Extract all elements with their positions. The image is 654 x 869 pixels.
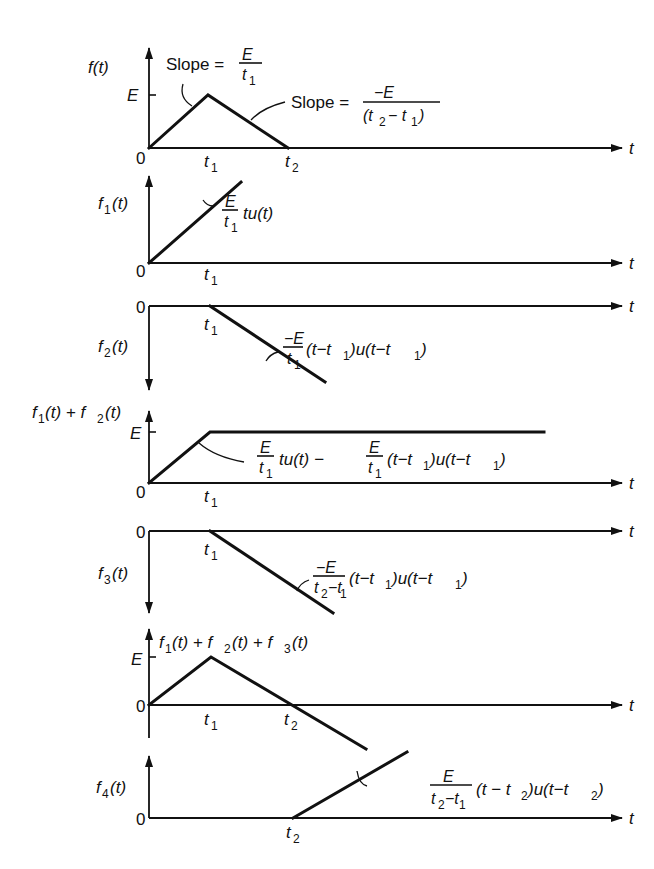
t-axis-label: t [629, 809, 635, 828]
t-axis-label: t [629, 474, 635, 493]
svg-text:(t): (t) [112, 564, 128, 583]
svg-text:1: 1 [411, 115, 418, 129]
svg-text:1: 1 [414, 349, 421, 363]
svg-text:2: 2 [438, 798, 445, 812]
panel-f: f(t) E 0 t t 1 t 2 Slope = E t 1 E Slope… [88, 46, 635, 175]
svg-text:1: 1 [211, 324, 218, 338]
svg-text:2: 2 [104, 346, 111, 360]
svg-text:(t): (t) [112, 194, 128, 213]
svg-text:2: 2 [292, 161, 299, 175]
svg-text:2: 2 [321, 587, 328, 601]
svg-text:t: t [204, 152, 210, 171]
svg-text:2: 2 [591, 789, 598, 803]
svg-text:t: t [284, 710, 290, 729]
svg-text:(t): (t) [112, 337, 128, 356]
svg-text:4: 4 [102, 787, 109, 801]
svg-text:1: 1 [493, 459, 500, 473]
negative-ramp-annotation: −E t 2 −t 1 (t−t 1 )u(t−t 1 ) [297, 559, 468, 601]
svg-text:t: t [314, 579, 319, 596]
t2-tick-label: t 2 [285, 152, 299, 175]
y-axis-label: f 2 (t) [98, 337, 128, 360]
svg-text:): ) [419, 340, 427, 359]
panel-f2: f 2 (t) 0 t t 1 −E t 1 (t−t 1 )u(t−t 1 ) [98, 297, 635, 390]
t1-tick-label: t 1 [204, 710, 218, 733]
origin-label: 0 [136, 523, 145, 542]
svg-text:E: E [260, 439, 271, 456]
svg-text:1: 1 [165, 642, 172, 656]
origin-label: 0 [136, 149, 145, 168]
t-axis-label: t [629, 522, 635, 541]
svg-text:1: 1 [249, 74, 256, 88]
svg-text:−E: −E [316, 559, 336, 576]
delayed-ramp-curve [293, 752, 407, 818]
svg-text:−t: −t [445, 790, 459, 807]
svg-text:1: 1 [211, 161, 218, 175]
triangle-pulse-curve [149, 95, 288, 148]
t-axis-label: t [629, 297, 635, 316]
svg-text:1: 1 [211, 719, 218, 733]
t1-tick-label: t 1 [204, 315, 218, 338]
svg-text:t: t [204, 540, 210, 559]
svg-text:2: 2 [521, 789, 528, 803]
t-axis-label: t [629, 139, 635, 158]
svg-text:1: 1 [385, 578, 392, 592]
svg-text:1: 1 [343, 349, 350, 363]
svg-text:t: t [204, 487, 210, 506]
e-label: E [127, 86, 139, 105]
svg-text:t: t [204, 315, 210, 334]
svg-text:E: E [369, 439, 380, 456]
svg-text:3: 3 [104, 573, 111, 587]
svg-text:3: 3 [284, 642, 291, 656]
t1-tick-label: t 1 [204, 487, 218, 510]
y-axis-label: f 1 (t) + f 2 (t) + f 3 (t) [159, 633, 308, 656]
svg-text:− t: − t [388, 107, 407, 124]
y-axis-label: f 1 (t) [98, 194, 128, 217]
panel-f3: f 3 (t) 0 t t 1 −E t 2 −t 1 (t−t 1 )u(t−… [98, 522, 635, 613]
svg-text:2: 2 [293, 832, 300, 846]
svg-text:1: 1 [340, 587, 347, 601]
e-label: E [130, 424, 142, 443]
svg-text:t: t [285, 152, 291, 171]
svg-text:1: 1 [375, 467, 382, 481]
negative-ramp-annotation: −E t 1 (t−t 1 )u(t−t 1 ) [266, 330, 427, 372]
svg-text:(t−t: (t−t [306, 340, 332, 359]
y-axis-label: f 3 (t) [98, 564, 128, 587]
svg-text:(t−t: (t−t [349, 569, 375, 588]
slope-down-annotation: E Slope = −E (t 2 − t 1 ) [251, 84, 440, 129]
svg-text:2: 2 [291, 719, 298, 733]
panel-f4: f 4 (t) 0 t t 2 E t 2 −t 1 (t − t 2 )u(t… [96, 752, 635, 846]
ramp-plateau-curve [149, 432, 544, 483]
svg-text:1: 1 [455, 578, 462, 592]
panel-f1-plus-f2: f 1 (t) + f 2 (t) E 0 t t 1 E t 1 tu(t) … [32, 403, 635, 510]
svg-text:t: t [204, 265, 210, 284]
svg-text:(t − t: (t − t [476, 780, 512, 799]
svg-text:1: 1 [266, 467, 273, 481]
origin-label: 0 [136, 810, 145, 829]
svg-text:Slope =: Slope = [291, 93, 349, 112]
svg-text:−E: −E [284, 330, 304, 347]
svg-text:2: 2 [224, 642, 231, 656]
svg-text:1: 1 [294, 358, 301, 372]
origin-label: 0 [136, 697, 145, 716]
svg-text:tu(t) −: tu(t) − [279, 450, 324, 469]
t1-tick-label: t 1 [204, 152, 218, 175]
svg-text:)u(t−t: )u(t−t [348, 340, 391, 359]
svg-text:E: E [242, 46, 253, 63]
svg-text:): ) [596, 780, 604, 799]
svg-text:t: t [431, 790, 436, 807]
svg-text:1: 1 [423, 459, 430, 473]
t1-tick-label: t 1 [204, 265, 218, 288]
svg-text:t: t [286, 823, 292, 842]
svg-text:1: 1 [38, 412, 45, 426]
svg-text:1: 1 [211, 496, 218, 510]
svg-text:t: t [368, 459, 373, 476]
svg-text:1: 1 [211, 274, 218, 288]
e-label: E [131, 650, 143, 669]
pulse-plus-negative-tail-curve [149, 657, 366, 749]
svg-text:t: t [287, 350, 292, 367]
y-axis-label: f 4 (t) [96, 778, 126, 801]
t-axis-label: t [629, 696, 635, 715]
svg-text:1: 1 [211, 549, 218, 563]
svg-text:(t) + f: (t) + f [172, 633, 214, 652]
svg-text:): ) [460, 569, 468, 588]
